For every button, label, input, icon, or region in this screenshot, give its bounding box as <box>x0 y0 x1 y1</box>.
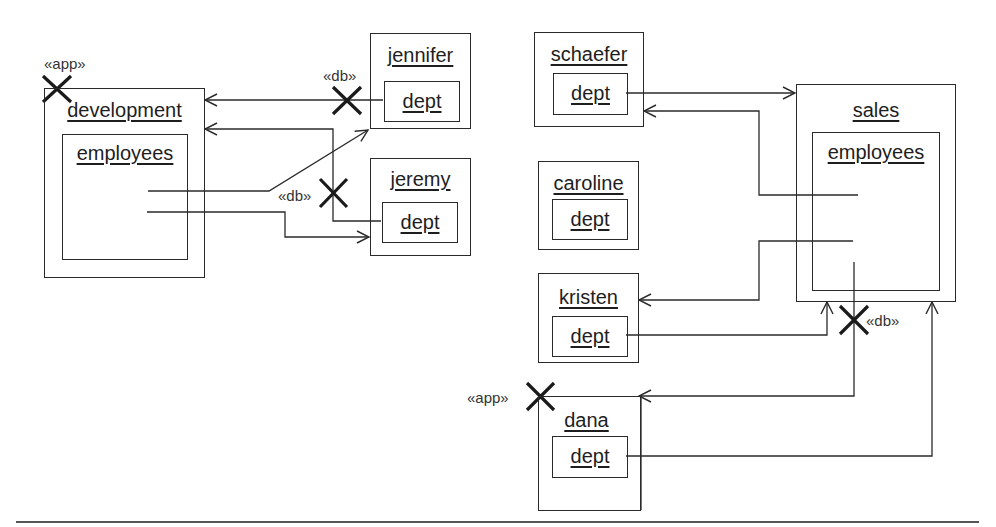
object-kristen[interactable]: kristen dept <box>538 273 639 363</box>
object-jeremy[interactable]: jeremy dept <box>370 158 471 256</box>
stereotype-app-dana: «app» <box>467 390 509 406</box>
object-dana[interactable]: dana dept <box>538 396 641 511</box>
part-title-dept: dept <box>385 90 459 112</box>
stereotype-app-development: «app» <box>44 56 86 72</box>
part-title-dept: dept <box>553 325 627 347</box>
object-title-jennifer: jennifer <box>371 44 470 66</box>
part-title-dept: dept <box>554 82 627 104</box>
object-development[interactable]: development employees <box>44 88 205 278</box>
stereotype-db-jennifer: «db» <box>323 68 356 84</box>
link-jeremy-to-development <box>205 129 381 221</box>
stereotype-db-jeremy: «db» <box>278 188 311 204</box>
stereotype-db-sales: «db» <box>866 313 899 329</box>
object-title-development: development <box>45 99 204 121</box>
part-development-employees[interactable]: employees <box>62 134 188 260</box>
object-title-jeremy: jeremy <box>371 168 470 190</box>
part-title-employees: employees <box>813 141 939 163</box>
part-jeremy-dept[interactable]: dept <box>382 202 458 243</box>
part-title-dept: dept <box>383 211 457 233</box>
part-schaefer-dept[interactable]: dept <box>553 73 628 115</box>
link-kristen-to-sales <box>626 302 827 335</box>
bottom-rule-divider <box>16 521 979 523</box>
object-title-kristen: kristen <box>539 286 638 308</box>
object-title-schaefer: schaefer <box>535 43 643 65</box>
object-schaefer[interactable]: schaefer dept <box>534 32 644 127</box>
object-title-dana: dana <box>533 409 640 431</box>
object-sales[interactable]: sales employees <box>796 84 956 302</box>
part-sales-employees[interactable]: employees <box>812 132 940 291</box>
object-jennifer[interactable]: jennifer dept <box>370 33 471 129</box>
part-caroline-dept[interactable]: dept <box>552 199 628 240</box>
part-title-dept: dept <box>553 445 627 467</box>
object-title-caroline: caroline <box>539 172 638 194</box>
part-dana-dept[interactable]: dept <box>552 436 628 478</box>
object-caroline[interactable]: caroline dept <box>538 161 639 250</box>
part-kristen-dept[interactable]: dept <box>552 316 628 357</box>
object-title-sales: sales <box>797 99 955 121</box>
part-jennifer-dept[interactable]: dept <box>384 81 460 122</box>
part-title-dept: dept <box>553 208 627 230</box>
part-title-employees: employees <box>63 142 187 164</box>
